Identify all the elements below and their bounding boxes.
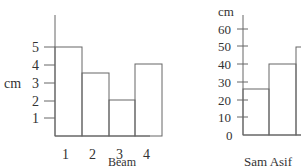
left-bar-1: [55, 47, 82, 136]
left-ytick-label-1: 1: [32, 111, 39, 126]
right-xlabel: Sam Asif: [244, 154, 293, 166]
left-xtick-label-1: 1: [62, 147, 69, 162]
left-bar-2: [82, 73, 109, 136]
right-ytick-label-60: 60: [218, 22, 231, 37]
left-ytick-label-5: 5: [32, 40, 39, 55]
right-ylabel: cm: [218, 4, 234, 19]
left-ytick-label-4: 4: [32, 58, 39, 73]
right-ytick-label-30: 30: [218, 75, 231, 90]
left-bar-4: [135, 64, 162, 136]
left-xlabel: Beam: [108, 155, 137, 166]
right-bar-1: [243, 89, 269, 135]
right-ytick-label-10: 10: [218, 110, 231, 125]
right-bar-2: [269, 64, 296, 135]
right-labels: cm 60 50 40 30 20 10 0 Sam Asif: [218, 4, 293, 166]
right-ytick-label-50: 50: [218, 39, 231, 54]
left-bar-3: [109, 100, 135, 136]
right-ytick-label-20: 20: [218, 93, 231, 108]
left-xtick-label-4: 4: [143, 147, 150, 162]
left-chart: [44, 15, 162, 136]
right-chart: [237, 15, 301, 135]
right-ytick-label-40: 40: [218, 57, 231, 72]
left-labels: cm 5 4 3 2 1 1 2 3 4 Beam: [4, 40, 150, 166]
left-xtick-label-2: 2: [89, 147, 96, 162]
left-ytick-label-3: 3: [32, 76, 39, 91]
left-ylabel: cm: [4, 76, 21, 91]
charts-canvas: cm 5 4 3 2 1 1 2 3 4 Beam cm 60 50 40 30…: [0, 0, 301, 166]
right-bar-3: [296, 47, 301, 135]
right-ytick-label-0: 0: [226, 128, 233, 143]
left-ytick-label-2: 2: [32, 94, 39, 109]
